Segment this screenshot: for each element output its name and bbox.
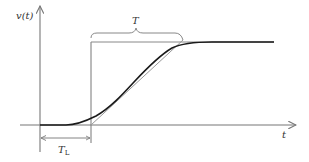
lag-label: TL xyxy=(58,144,70,157)
step-response-diagram: v(t) t T TL xyxy=(0,0,309,162)
x-axis-label: t xyxy=(282,129,287,140)
tangent-line xyxy=(91,40,183,125)
lag-label-sub: L xyxy=(65,149,70,157)
response-curve xyxy=(40,42,274,125)
y-axis-label: v(t) xyxy=(16,10,34,21)
brace-T xyxy=(91,28,183,40)
time-constant-label: T xyxy=(132,15,140,26)
